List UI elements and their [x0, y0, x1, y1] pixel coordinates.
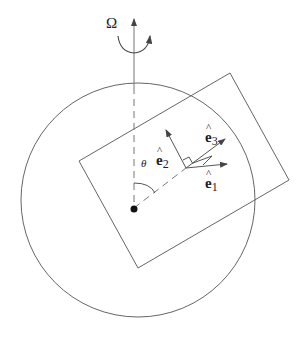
- center-point: [131, 206, 138, 213]
- e2-vector: [166, 130, 186, 168]
- e1-label: ^e1: [205, 176, 218, 193]
- right-angle-marker: [183, 157, 193, 164]
- diagram-canvas: [0, 0, 305, 343]
- sphere-outline: [21, 83, 255, 317]
- radius-dashed-line: [134, 168, 186, 208]
- e3-label: ^e3: [205, 130, 218, 147]
- theta-arc: [134, 183, 155, 193]
- e2-label: ^e2: [156, 153, 169, 170]
- tilted-plate: [79, 73, 289, 268]
- omega-label: Ω: [106, 16, 117, 31]
- theta-label: θ: [141, 158, 146, 169]
